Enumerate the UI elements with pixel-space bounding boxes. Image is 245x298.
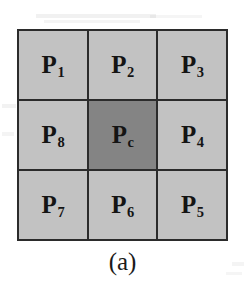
- cell-label-pc: Pc: [112, 122, 134, 147]
- scan-artifact: [36, 14, 156, 18]
- grid-cell-top-center: P2: [89, 31, 157, 99]
- grid-cell-bottom-left: P7: [19, 171, 87, 239]
- grid-cell-center: Pc: [89, 101, 157, 169]
- neighborhood-diagram: P1 P2 P3 P8 Pc P4 P7 P6 P5: [17, 29, 228, 241]
- cell-label-p7: P7: [42, 192, 65, 217]
- figure-page: { "figure": { "caption": "(a)", "colors"…: [0, 0, 245, 298]
- scan-artifact: [44, 20, 140, 23]
- scan-artifact: [2, 104, 16, 108]
- grid-cell-bottom-right: P5: [158, 171, 226, 239]
- grid-cell-top-right: P3: [158, 31, 226, 99]
- grid-cell-middle-right: P4: [158, 101, 226, 169]
- grid-cell-middle-left: P8: [19, 101, 87, 169]
- cell-label-p3: P3: [181, 52, 204, 77]
- figure-caption: (a): [0, 249, 245, 274]
- cell-label-p2: P2: [111, 52, 134, 77]
- grid-cell-bottom-center: P6: [89, 171, 157, 239]
- cell-label-p8: P8: [42, 122, 65, 147]
- cell-label-p1: P1: [42, 52, 65, 77]
- cell-label-p4: P4: [181, 122, 204, 147]
- cell-label-p6: P6: [111, 192, 134, 217]
- pixel-grid: P1 P2 P3 P8 Pc P4 P7 P6 P5: [17, 29, 228, 241]
- cell-label-p5: P5: [181, 192, 204, 217]
- scan-artifact: [150, 15, 202, 18]
- grid-cell-top-left: P1: [19, 31, 87, 99]
- scan-artifact: [2, 132, 14, 136]
